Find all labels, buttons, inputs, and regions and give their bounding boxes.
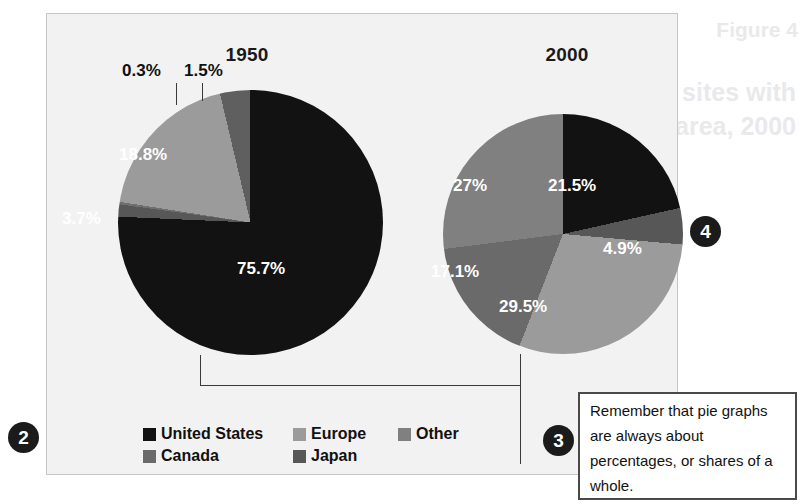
callout-leader-vertical-2000 [520, 354, 521, 464]
slice-label-2000-other: 27% [453, 176, 487, 196]
slice-label-2000-united-states: 21.5% [548, 176, 596, 196]
legend-item-europe[interactable]: Europe [293, 425, 398, 443]
slice-label-2000-japan: 4.9% [603, 239, 642, 259]
legend-swatch-other [398, 428, 411, 441]
legend-item-united-states[interactable]: United States [143, 425, 293, 443]
legend-label-other: Other [416, 425, 459, 443]
legend-row-2: Canada Japan [143, 445, 459, 467]
slice-label-1950-europe: 18.8% [119, 145, 167, 165]
slice-label-2000-europe: 29.5% [499, 297, 547, 317]
legend-item-other[interactable]: Other [398, 425, 459, 443]
annotation-marker-3[interactable]: 3 [543, 425, 574, 456]
leader-line-1950-canada [176, 83, 177, 105]
legend-swatch-japan [293, 450, 306, 463]
annotation-marker-2[interactable]: 2 [8, 422, 39, 453]
legend: United States Europe Other Canada Japan [143, 423, 459, 467]
pie-title-2000: 2000 [477, 44, 657, 66]
legend-label-europe: Europe [311, 425, 366, 443]
slice-label-1950-united-states: 75.7% [237, 259, 285, 279]
legend-label-canada: Canada [161, 447, 219, 465]
legend-row-1: United States Europe Other [143, 423, 459, 445]
callout-leader-horizontal [200, 385, 521, 386]
legend-label-united-states: United States [161, 425, 263, 443]
legend-swatch-united-states [143, 428, 156, 441]
legend-item-canada[interactable]: Canada [143, 447, 293, 465]
slice-label-1950-japan: 1.5% [184, 61, 223, 81]
background-bleed-line-a: Figure 4 [716, 18, 798, 42]
pie-chart-1950 [118, 90, 383, 355]
leader-line-1950-japan [202, 83, 203, 101]
slice-label-2000-canada: 17.1% [431, 262, 479, 282]
callout-text: Remember that pie graphs are always abou… [590, 398, 787, 498]
callout-box: Remember that pie graphs are always abou… [578, 392, 797, 500]
annotation-marker-4[interactable]: 4 [690, 216, 721, 247]
legend-item-japan[interactable]: Japan [293, 447, 398, 465]
pie-chart-2000 [443, 114, 683, 354]
slice-label-1950-other: 3.7% [62, 209, 101, 229]
legend-swatch-canada [143, 450, 156, 463]
legend-label-japan: Japan [311, 447, 357, 465]
callout-leader-vertical-1950 [200, 355, 201, 385]
legend-swatch-europe [293, 428, 306, 441]
slice-label-1950-canada: 0.3% [122, 61, 161, 81]
